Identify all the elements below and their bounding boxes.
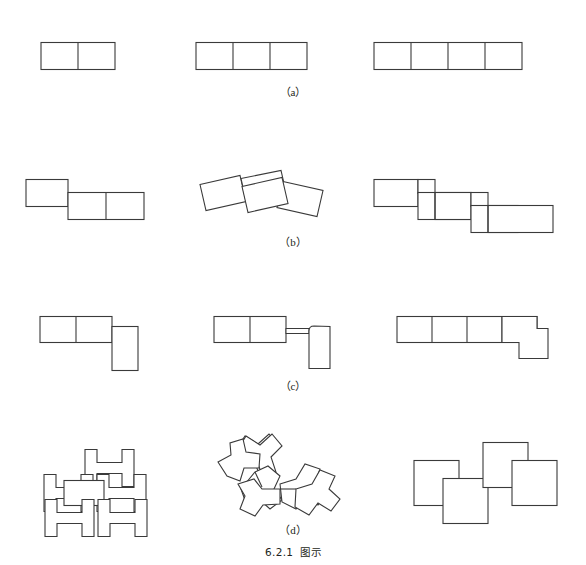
row-b-group: （b）	[26, 171, 553, 249]
row-d-group: （d）	[44, 434, 557, 537]
row-c-group: （c）	[40, 317, 548, 393]
caption-number: 6.2.1	[265, 546, 293, 558]
row-label-b: （b）	[279, 236, 307, 248]
stair-5-squares	[374, 180, 553, 233]
strip-4-squares	[374, 43, 522, 70]
L-shape-2-plus-tall	[40, 317, 138, 371]
figure-caption: 6.2.1图示	[0, 544, 586, 559]
figure-container: （a）	[0, 0, 586, 565]
row-label-d: （d）	[279, 524, 307, 536]
caption-title: 图示	[300, 546, 321, 558]
dumbbell-2-plus-linked-tall	[214, 317, 330, 369]
i-beam-tiles	[44, 450, 147, 537]
figure-canvas: （a）	[0, 0, 586, 565]
row-a-group: （a）	[41, 43, 522, 99]
row-label-c: （c）	[280, 380, 307, 392]
overlapping-squares	[414, 443, 557, 524]
tilted-3-squares	[200, 171, 323, 217]
strip-2-squares	[41, 43, 115, 70]
strip-3-squares	[196, 43, 307, 70]
row-label-a: （a）	[280, 86, 307, 98]
row-4-plus-notch	[397, 317, 548, 359]
y-bone-tiles	[218, 434, 340, 516]
step-3-squares	[26, 180, 144, 220]
